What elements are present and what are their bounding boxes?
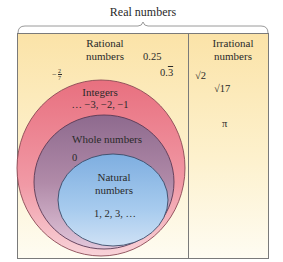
rational-example-fraction: − 2 7: [52, 68, 62, 81]
whole-numbers-label: Whole numbers: [62, 133, 152, 145]
natural-numbers-label-line2: numbers: [84, 184, 144, 196]
rational-example-repeating: 0.3: [160, 67, 173, 79]
rational-label-line2: numbers: [75, 50, 135, 62]
real-numbers-brace: [18, 22, 268, 33]
title-real-numbers: Real numbers: [93, 6, 193, 18]
repeating-digit: 3: [168, 67, 173, 78]
rational-label-line1: Rational: [75, 37, 135, 49]
irrational-example-sqrt2: √2: [195, 70, 206, 82]
natural-numbers-label-line1: Natural: [84, 171, 144, 183]
integers-label: Integers: [70, 86, 130, 98]
fraction-sign: −: [52, 72, 57, 78]
repeating-base: 0.: [160, 67, 168, 78]
fraction-denominator: 7: [58, 75, 61, 81]
fraction-numerator: 2: [58, 68, 62, 75]
integers-examples: … −3, −2, −1: [60, 99, 140, 111]
natural-numbers-examples: 1, 2, 3, …: [80, 208, 150, 220]
rational-example-decimal: 0.25: [143, 51, 161, 63]
irrational-label-line1: Irrational: [198, 37, 268, 49]
irrational-example-sqrt17: √17: [214, 83, 230, 95]
natural-numbers-region: [58, 154, 168, 246]
whole-numbers-examples: 0: [72, 152, 77, 164]
irrational-example-pi: π: [222, 118, 227, 130]
irrational-label-line2: numbers: [198, 50, 268, 62]
